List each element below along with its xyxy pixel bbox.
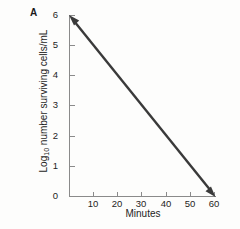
x-axis-title: Minutes bbox=[70, 208, 216, 219]
y-axis-title: Log10 number surviving cells/mL bbox=[38, 6, 49, 196]
figure-panel: A 6 5 4 3 2 1 0 10 20 30 40 50 60 bbox=[0, 0, 240, 229]
y-axis-title-prefix: Log bbox=[38, 156, 49, 173]
y-axis-title-subscript: 10 bbox=[43, 148, 50, 156]
data-series-line bbox=[74, 21, 211, 191]
plot-area bbox=[0, 0, 240, 229]
y-axis-title-container: Log10 number surviving cells/mL bbox=[38, 6, 52, 196]
y-axis-title-suffix: number surviving cells/mL bbox=[38, 30, 49, 148]
